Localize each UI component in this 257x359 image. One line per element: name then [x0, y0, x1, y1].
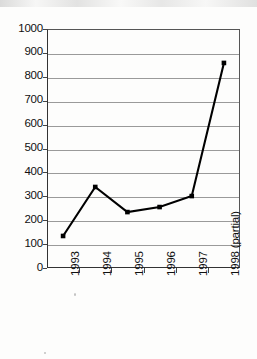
y-tick-label: 900 [24, 45, 43, 57]
y-tick-label: 0 [37, 261, 43, 273]
x-tick-label: 1994 [101, 251, 113, 276]
y-tick-label: 700 [24, 93, 43, 105]
x-tick-label: 1998 (partial) [229, 211, 241, 276]
y-tick-label: 200 [24, 213, 43, 225]
y-tick-label: 400 [24, 165, 43, 177]
x-tick-label: 1993 [69, 251, 81, 276]
data-point-marker [125, 210, 130, 215]
x-tick-label: 1996 [165, 251, 177, 276]
data-series [47, 29, 240, 268]
scan-speck [44, 352, 46, 354]
y-tick-label: 500 [24, 141, 43, 153]
x-tick-label: 1997 [197, 251, 209, 276]
y-tick-label: 100 [24, 237, 43, 249]
data-point-marker [93, 185, 98, 190]
y-tick-label: 1000 [18, 22, 43, 34]
chart-page: 01002003004005006007008009001000 1993199… [0, 0, 257, 359]
scan-speck [74, 293, 76, 296]
y-tick-mark [43, 268, 47, 269]
x-tick-label: 1995 [133, 251, 145, 276]
data-point-marker [222, 61, 227, 66]
y-tick-label: 300 [24, 189, 43, 201]
data-point-marker [157, 205, 162, 210]
y-tick-label: 800 [24, 69, 43, 81]
scan-artifact-band [0, 0, 257, 7]
data-point-marker [61, 234, 66, 239]
y-tick-label: 600 [24, 117, 43, 129]
data-point-marker [189, 194, 194, 199]
series-markers [61, 61, 226, 239]
series-line [63, 63, 224, 236]
